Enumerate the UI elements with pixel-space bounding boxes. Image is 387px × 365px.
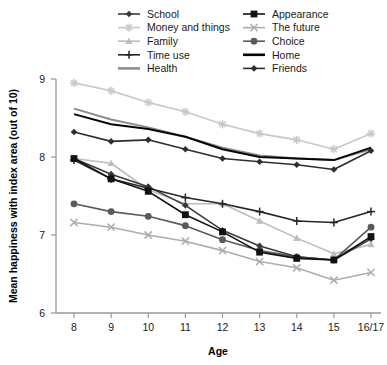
legend-item-money-and-things[interactable]: Money and things xyxy=(118,21,230,33)
legend-item-family[interactable]: Family xyxy=(118,35,179,47)
x-axis-ticks: 8910111213141516/17 xyxy=(71,313,384,333)
legend-label: Money and things xyxy=(147,21,230,33)
x-tick-label: 13 xyxy=(254,321,266,333)
legend-item-choice[interactable]: Choice xyxy=(243,35,305,47)
data-point-marker xyxy=(219,236,226,243)
data-point-marker xyxy=(144,98,152,106)
data-point-marker xyxy=(330,145,338,153)
legend-item-friends[interactable]: Friends xyxy=(243,62,307,74)
legend-label: Friends xyxy=(272,62,307,74)
data-point-marker xyxy=(293,136,301,144)
legend-label: Time use xyxy=(147,49,190,61)
data-point-marker xyxy=(367,208,375,216)
chart-series-group xyxy=(70,79,375,284)
data-point-marker xyxy=(219,155,226,162)
data-point-marker xyxy=(218,120,226,128)
legend-label: Family xyxy=(147,35,179,47)
data-point-marker xyxy=(367,129,375,137)
data-point-marker xyxy=(145,213,152,220)
legend-item-the-future[interactable]: The future xyxy=(243,21,320,33)
line-chart: SchoolMoney and thingsFamilyTime useHeal… xyxy=(0,0,387,365)
series-money-and-things xyxy=(70,79,375,154)
data-point-marker xyxy=(145,137,152,144)
y-axis-ticks: 6789 xyxy=(39,73,56,319)
data-point-marker xyxy=(126,11,133,18)
data-point-marker xyxy=(107,87,115,95)
data-point-marker xyxy=(251,38,258,45)
x-tick-label: 11 xyxy=(180,321,191,333)
data-point-marker xyxy=(108,175,115,182)
legend-item-appearance[interactable]: Appearance xyxy=(243,8,329,20)
legend-label: School xyxy=(147,8,179,20)
data-point-marker xyxy=(255,129,263,137)
legend-label: Choice xyxy=(272,35,305,47)
data-point-marker xyxy=(71,200,78,207)
x-tick-label: 15 xyxy=(328,321,340,333)
data-point-marker xyxy=(181,108,189,116)
data-point-marker xyxy=(182,146,189,153)
y-tick-label: 7 xyxy=(39,229,45,241)
x-axis-title: Age xyxy=(208,345,228,357)
data-point-marker xyxy=(70,79,78,87)
data-point-marker xyxy=(293,255,300,262)
data-point-marker xyxy=(293,162,300,169)
legend-label: Appearance xyxy=(272,8,329,20)
data-point-marker xyxy=(330,257,337,264)
data-point-marker xyxy=(182,211,189,218)
y-tick-label: 8 xyxy=(39,151,45,163)
legend-label: Home xyxy=(272,49,300,61)
data-point-marker xyxy=(251,65,258,72)
data-point-marker xyxy=(331,166,338,173)
data-point-marker xyxy=(145,188,152,195)
x-tick-label: 9 xyxy=(108,321,114,333)
data-point-marker xyxy=(251,11,258,18)
data-point-marker xyxy=(368,233,375,240)
y-axis-title: Mean happiness with index area (out of 1… xyxy=(7,89,19,303)
series-appearance xyxy=(71,155,375,263)
data-point-marker xyxy=(125,51,133,59)
data-point-marker xyxy=(108,138,115,145)
legend-item-health[interactable]: Health xyxy=(118,62,178,74)
data-point-marker xyxy=(181,194,189,202)
legend-item-school[interactable]: School xyxy=(118,8,179,20)
data-point-marker xyxy=(182,222,189,229)
data-point-marker xyxy=(256,249,263,256)
data-point-marker xyxy=(256,158,263,165)
legend-item-home[interactable]: Home xyxy=(243,49,300,61)
data-point-marker xyxy=(293,217,301,225)
legend-label: The future xyxy=(272,21,320,33)
legend-item-time-use[interactable]: Time use xyxy=(118,49,190,61)
chart-container: SchoolMoney and thingsFamilyTime useHeal… xyxy=(0,0,387,365)
data-point-marker xyxy=(71,129,78,136)
data-point-marker xyxy=(368,224,375,231)
data-point-marker xyxy=(125,23,133,31)
series-school xyxy=(71,155,375,263)
x-tick-label: 14 xyxy=(291,321,303,333)
x-tick-label: 12 xyxy=(217,321,229,333)
y-tick-label: 9 xyxy=(39,73,45,85)
data-point-marker xyxy=(256,208,264,216)
chart-legend: SchoolMoney and thingsFamilyTime useHeal… xyxy=(118,8,329,74)
data-point-marker xyxy=(108,208,115,215)
data-point-marker xyxy=(71,155,78,162)
data-point-marker xyxy=(330,219,338,227)
legend-label: Health xyxy=(147,62,178,74)
x-tick-label: 8 xyxy=(71,321,77,333)
data-point-marker xyxy=(219,228,226,235)
series-health xyxy=(74,109,371,160)
x-tick-label: 16/17 xyxy=(358,321,384,333)
x-tick-label: 10 xyxy=(142,321,154,333)
y-tick-label: 6 xyxy=(39,307,45,319)
